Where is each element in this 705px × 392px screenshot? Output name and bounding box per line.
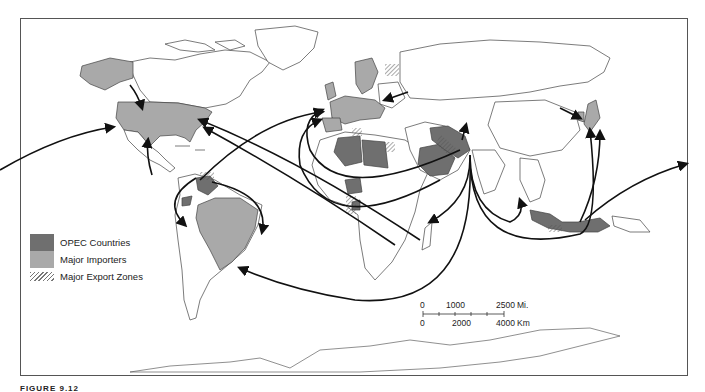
caribbean bbox=[175, 146, 205, 150]
iberia bbox=[322, 118, 342, 132]
asia bbox=[400, 40, 660, 302]
scandinavia bbox=[355, 58, 378, 94]
north-sea-export-zone bbox=[385, 64, 399, 76]
legend-label-importers: Major Importers bbox=[60, 254, 127, 265]
south-america bbox=[175, 172, 262, 320]
europe bbox=[322, 58, 405, 132]
uk bbox=[325, 82, 336, 100]
importers-swatch bbox=[30, 251, 54, 268]
arrow-indonesia-to-pacific bbox=[585, 164, 686, 220]
scale-mi-start: 0 bbox=[420, 300, 425, 310]
scale-mi-mid: 1000 bbox=[446, 300, 465, 310]
scale-mi-end: 2500 bbox=[496, 300, 515, 310]
scale-km-end: 4000 bbox=[496, 318, 515, 328]
scale-bar bbox=[423, 311, 504, 317]
legend-label-export-zones: Major Export Zones bbox=[60, 271, 143, 282]
opec-swatch bbox=[30, 234, 54, 251]
new-guinea bbox=[612, 216, 650, 232]
canada bbox=[130, 50, 270, 108]
north-america bbox=[80, 26, 318, 172]
scale-km-unit: Km bbox=[517, 318, 530, 328]
russia bbox=[400, 40, 610, 100]
southeast-asia bbox=[520, 158, 545, 202]
scale-km-start: 0 bbox=[420, 318, 425, 328]
arrow-indonesia-to-japan bbox=[580, 132, 600, 222]
libya-export-zone bbox=[385, 142, 395, 152]
madagascar bbox=[422, 222, 432, 250]
world-oil-flow-map bbox=[0, 0, 705, 392]
japan bbox=[584, 100, 600, 132]
legend-item-opec: OPEC Countries bbox=[30, 234, 143, 251]
legend-item-importers: Major Importers bbox=[30, 251, 143, 268]
india bbox=[472, 150, 505, 194]
figure-caption: FIGURE 9.12 bbox=[20, 384, 79, 392]
alaska bbox=[80, 58, 133, 90]
legend-label-opec: OPEC Countries bbox=[60, 237, 130, 248]
scale-mi-unit: Mi. bbox=[517, 300, 528, 310]
china bbox=[488, 100, 580, 156]
indonesia-export-zone bbox=[548, 225, 562, 232]
algeria-export-zone bbox=[352, 128, 362, 136]
arrow-pacific-to-usa bbox=[0, 127, 113, 170]
indonesia bbox=[530, 210, 610, 232]
scale-km-mid: 2000 bbox=[452, 318, 471, 328]
hatch-pattern-icon bbox=[30, 272, 54, 281]
legend-item-export-zones: Major Export Zones bbox=[30, 268, 143, 285]
libya bbox=[362, 140, 388, 168]
canadian-arctic-islands bbox=[165, 40, 245, 52]
map-legend: OPEC Countries Major Importers Major Exp… bbox=[30, 234, 143, 285]
nigeria bbox=[345, 178, 362, 194]
antarctica bbox=[130, 328, 620, 372]
